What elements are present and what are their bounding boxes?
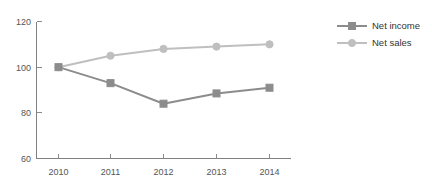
series-net-sales [55, 41, 273, 71]
y-tick-marks [37, 22, 42, 159]
y-tick-label-60: 60 [21, 154, 31, 164]
x-axis-group: 2010 2011 2012 2013 2014 [37, 154, 291, 178]
data-point-net-sales-2012 [160, 45, 167, 52]
line-chart-figure: 120 100 80 60 2010 2011 2012 2013 2014 [0, 0, 432, 196]
legend-label-1: Net sales [372, 37, 412, 48]
data-point-net-sales-2014 [266, 41, 273, 48]
data-point-net-income-2010 [55, 64, 62, 71]
data-point-net-sales-2013 [213, 43, 220, 50]
y-tick-labels: 120 100 80 60 [16, 17, 31, 164]
series-layer [55, 41, 273, 107]
x-tick-label-2014: 2014 [259, 167, 279, 177]
legend-marker-square [349, 23, 356, 30]
x-tick-label-2013: 2013 [206, 167, 226, 177]
x-tick-labels: 2010 2011 2012 2013 2014 [48, 167, 279, 177]
legend-label-0: Net income [372, 20, 420, 31]
chart-canvas: 120 100 80 60 2010 2011 2012 2013 2014 [0, 0, 432, 196]
data-point-net-income-2014 [266, 84, 273, 91]
chart-legend: Net incomeNet sales [337, 20, 420, 48]
x-tick-label-2011: 2011 [101, 167, 120, 177]
x-tick-marks [59, 154, 270, 159]
series-line-net-income [59, 67, 270, 104]
x-tick-label-2010: 2010 [48, 167, 68, 177]
data-point-net-income-2011 [107, 80, 114, 87]
data-point-net-income-2012 [160, 100, 167, 107]
series-net-income [55, 64, 273, 108]
y-tick-label-100: 100 [16, 63, 31, 73]
x-tick-label-2012: 2012 [153, 167, 173, 177]
data-point-net-sales-2011 [107, 52, 114, 59]
y-tick-label-80: 80 [21, 108, 31, 118]
y-axis-group: 120 100 80 60 [16, 17, 42, 164]
legend-marker-circle [348, 39, 355, 46]
legend-entry-net-sales[interactable]: Net sales [337, 37, 412, 48]
legend-entry-net-income[interactable]: Net income [337, 20, 420, 31]
y-tick-label-120: 120 [16, 17, 31, 27]
data-point-net-income-2013 [213, 90, 220, 97]
